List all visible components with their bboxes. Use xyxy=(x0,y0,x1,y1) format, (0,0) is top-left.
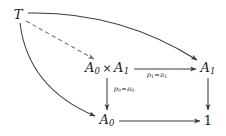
pi0-subscript: 0 xyxy=(131,88,134,93)
times-icon: × xyxy=(102,62,111,75)
node-a1-sub: 1 xyxy=(210,66,215,76)
node-product-sub-1: 1 xyxy=(124,66,129,76)
edge-label-p0: p0=π0 xyxy=(114,86,134,94)
node-product-base-a0: A xyxy=(85,60,94,75)
pi1-subscript: 1 xyxy=(164,74,167,79)
node-product-sub-0: 0 xyxy=(94,66,99,76)
node-product: A0×A1 xyxy=(85,61,129,76)
edge-label-p1: p1=π1 xyxy=(147,72,167,80)
node-terminal-label: 1 xyxy=(204,113,212,128)
node-a0-base: A xyxy=(100,112,109,127)
arrow-cone-leg-to-a0 xyxy=(20,23,95,116)
node-a0: A0 xyxy=(100,113,115,128)
node-terminal-one: 1 xyxy=(204,114,212,127)
node-a1-base: A xyxy=(201,60,210,75)
node-a1: A1 xyxy=(201,61,216,76)
node-product-base-a1: A xyxy=(114,60,123,75)
commutative-diagram: T A0×A1 A1 A0 1 p1=π1 p0=π0 xyxy=(0,0,226,136)
node-a0-sub: 0 xyxy=(109,118,114,128)
node-t: T xyxy=(14,8,23,21)
arrow-mediating-morphism xyxy=(26,21,94,59)
node-t-label: T xyxy=(14,7,23,22)
